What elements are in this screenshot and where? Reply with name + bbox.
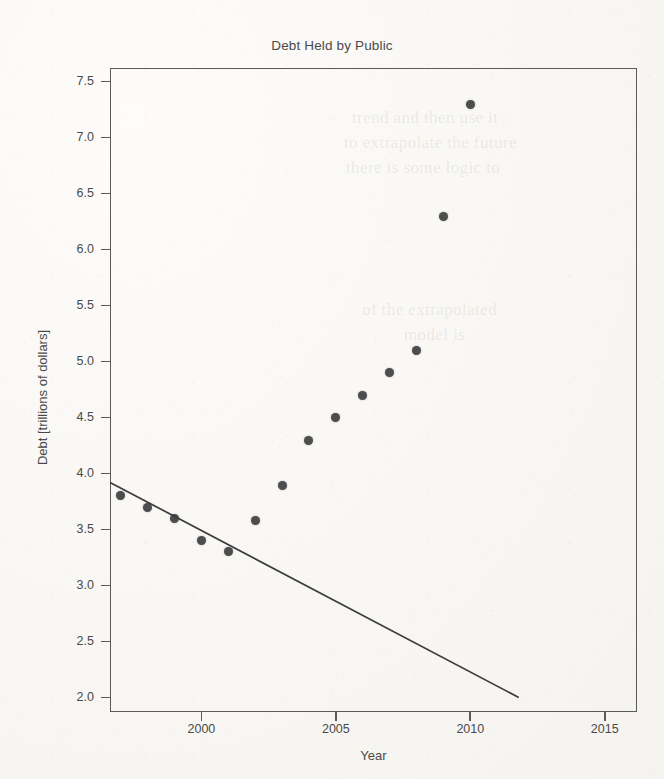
y-axis-tick-label: 3.5 [54, 522, 94, 536]
data-point [170, 514, 179, 523]
y-axis-tick-label: 6.0 [54, 242, 94, 256]
y-axis-tick-mark [101, 585, 110, 587]
y-axis-tick-mark [101, 81, 110, 83]
y-axis-tick-label: 4.0 [54, 466, 94, 480]
y-axis-tick-mark [101, 473, 110, 475]
x-axis-tick-label: 2015 [591, 722, 619, 736]
y-axis-tick-mark [101, 305, 110, 307]
data-point [143, 503, 152, 512]
plot-area-frame [110, 68, 637, 712]
y-axis-tick-label: 3.0 [54, 578, 94, 592]
chart-title: Debt Held by Public [0, 38, 664, 53]
data-point [358, 391, 367, 400]
y-axis-tick-label: 7.5 [54, 74, 94, 88]
y-axis-tick-label: 4.5 [54, 410, 94, 424]
x-axis-tick-mark [469, 712, 471, 721]
y-axis-tick-mark [101, 193, 110, 195]
y-axis-tick-label: 6.5 [54, 186, 94, 200]
x-axis-tick-label: 2010 [456, 722, 484, 736]
y-axis-tick-mark [101, 529, 110, 531]
y-axis-tick-label: 7.0 [54, 130, 94, 144]
y-axis-tick-mark [101, 417, 110, 419]
x-axis-label: Year [110, 748, 637, 763]
y-axis-label: Debt [trillions of dollars] [35, 268, 50, 528]
x-axis-tick-mark [201, 712, 203, 721]
data-point [412, 346, 421, 355]
y-axis-tick-label: 5.5 [54, 298, 94, 312]
y-axis-tick-mark [101, 697, 110, 699]
y-axis-tick-label: 2.0 [54, 690, 94, 704]
y-axis-tick-label: 2.5 [54, 634, 94, 648]
data-point [197, 536, 206, 545]
data-point [278, 481, 287, 490]
x-axis-tick-mark [335, 712, 337, 721]
y-axis-tick-label: 5.0 [54, 354, 94, 368]
chart-figure: Debt Held by Public 2.02.53.03.54.04.55.… [0, 0, 664, 779]
y-axis-tick-mark [101, 361, 110, 363]
y-axis-tick-mark [101, 137, 110, 139]
y-axis-tick-mark [101, 249, 110, 251]
x-axis-tick-label: 2000 [188, 722, 216, 736]
x-axis-tick-mark [604, 712, 606, 721]
x-axis-tick-label: 2005 [322, 722, 350, 736]
y-axis-tick-mark [101, 641, 110, 643]
data-point [251, 516, 260, 525]
